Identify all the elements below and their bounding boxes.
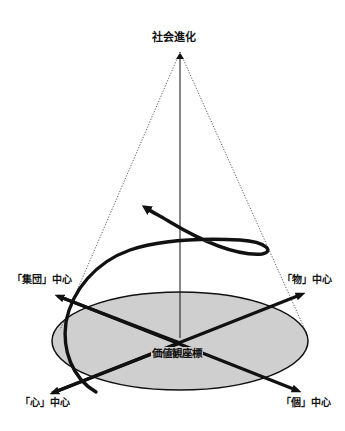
axis-label-individual-centered: 「個」中心 — [281, 397, 331, 409]
diagram-svg — [0, 0, 345, 431]
axis-label-heart-centered: 「心」中心 — [20, 397, 70, 409]
cone-right-edge — [180, 52, 306, 332]
axis-label-group-centered: 「集団」中心 — [12, 274, 72, 286]
social-evolution-diagram: 社会進化 「集団」中心 「物」中心 「心」中心 「個」中心 価値観座標 — [0, 0, 345, 431]
value-coordinates-label: 価値観座標 — [151, 347, 203, 359]
axis-label-object-centered: 「物」中心 — [282, 274, 332, 286]
title-social-evolution: 社会進化 — [152, 32, 196, 44]
